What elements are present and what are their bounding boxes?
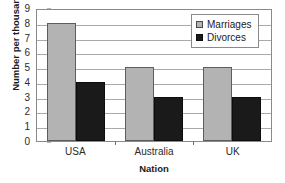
- x-axis-title: Nation: [36, 163, 272, 174]
- bar-marriages-australia[interactable]: [125, 67, 154, 141]
- y-tick-label: 9: [24, 4, 30, 14]
- x-tick-label-australia: Australia: [115, 146, 194, 157]
- x-tick-label-uk: UK: [193, 146, 272, 157]
- bar-divorces-usa[interactable]: [76, 82, 105, 141]
- plot-area: Marriages Divorces: [36, 9, 272, 142]
- bar-group-australia: [115, 10, 193, 141]
- bar-divorces-uk[interactable]: [232, 97, 261, 141]
- bar-divorces-australia[interactable]: [154, 97, 183, 141]
- y-tick-label: 0: [24, 137, 30, 147]
- legend-label: Divorces: [207, 33, 246, 43]
- x-tick-label-usa: USA: [36, 146, 115, 157]
- x-category-separator: [193, 141, 194, 145]
- legend-item-marriages[interactable]: Marriages: [196, 18, 251, 31]
- y-tick-label: 8: [24, 19, 30, 29]
- legend-item-divorces[interactable]: Divorces: [196, 31, 251, 44]
- y-tick-label: 1: [24, 122, 30, 132]
- y-tick-label: 4: [24, 78, 30, 88]
- y-tick-label: 6: [24, 48, 30, 58]
- y-tick-label: 5: [24, 63, 30, 73]
- legend-label: Marriages: [207, 20, 251, 30]
- x-category-separator: [115, 141, 116, 145]
- y-axis-ticks: 9 8 7 6 5 4 3 2 1 0: [16, 9, 32, 142]
- bar-marriages-usa[interactable]: [47, 23, 76, 141]
- legend: Marriages Divorces: [191, 14, 259, 48]
- x-axis-ticks: USA Australia UK: [36, 146, 272, 157]
- y-tick-label: 3: [24, 93, 30, 103]
- divorces-swatch-icon: [196, 34, 203, 41]
- bar-group-usa: [37, 10, 115, 141]
- y-tick-label: 2: [24, 107, 30, 117]
- marriages-swatch-icon: [196, 21, 203, 28]
- y-tick-label: 7: [24, 34, 30, 44]
- bar-marriages-uk[interactable]: [203, 67, 232, 141]
- bar-chart: Number per thousand 9 8 7 6 5 4 3 2 1 0: [0, 0, 285, 183]
